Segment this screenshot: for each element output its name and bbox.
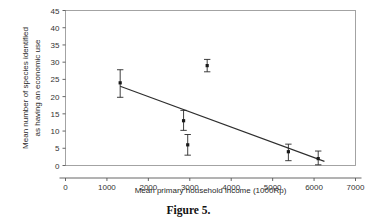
y-axis-tick-label: 35 <box>51 41 60 50</box>
y-axis-title-line1: Mean number of species identified <box>21 27 30 149</box>
scatter-chart: 0510152025303540450100020003000400050006… <box>0 0 377 219</box>
data-point-0 <box>119 81 122 84</box>
y-axis-tick-label: 10 <box>51 127 60 136</box>
data-point-3 <box>206 64 209 67</box>
y-axis-tick-label: 40 <box>51 24 60 33</box>
y-axis-tick-label: 30 <box>51 58 60 67</box>
y-axis-tick-label: 0 <box>55 162 60 171</box>
data-point-5 <box>317 157 320 160</box>
x-axis-tick-label: 6000 <box>305 183 323 192</box>
figure-caption: Figure 5. <box>167 204 211 217</box>
data-point-1 <box>182 119 185 122</box>
data-point-2 <box>186 143 189 146</box>
y-axis-tick-label: 5 <box>55 144 60 153</box>
y-axis-title-line2: as having an economic use <box>33 39 42 137</box>
x-axis-tick-label: 7000 <box>347 183 365 192</box>
regression-line <box>120 86 324 161</box>
y-axis-tick-label: 15 <box>51 110 60 119</box>
figure-container: 0510152025303540450100020003000400050006… <box>0 0 377 219</box>
y-axis-tick-label: 20 <box>51 93 60 102</box>
x-axis-tick-label: 1000 <box>98 183 116 192</box>
x-axis-tick-label: 0 <box>63 183 68 192</box>
data-point-4 <box>287 150 290 153</box>
y-axis-tick-label: 45 <box>51 7 60 16</box>
y-axis-tick-label: 25 <box>51 75 60 84</box>
x-axis-title: Mean primary household income (1000Rp) <box>135 186 287 195</box>
plot-frame <box>66 11 356 166</box>
